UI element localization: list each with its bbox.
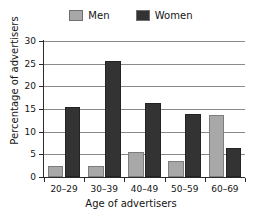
legend-label-women: Women xyxy=(155,10,193,21)
x-tick-mark xyxy=(165,178,166,182)
y-tick-label: 5 xyxy=(30,150,36,159)
bar-men xyxy=(128,152,144,177)
chart-legend: Men Women xyxy=(0,10,262,21)
bar-group xyxy=(84,41,124,177)
bar-men xyxy=(88,166,104,177)
bar-group xyxy=(44,41,84,177)
x-tick-label: 40–49 xyxy=(124,184,164,194)
bar-women xyxy=(145,103,161,177)
x-tick-label: 20–29 xyxy=(44,184,84,194)
bar-group xyxy=(165,41,205,177)
bar-men xyxy=(209,115,225,177)
bar-chart-figure: Men Women 051015202530 20–2930–3940–4950… xyxy=(0,0,262,218)
legend-entry-women: Women xyxy=(136,10,193,21)
x-tick-mark xyxy=(245,178,246,182)
x-axis-title: Age of advertisers xyxy=(0,198,262,209)
y-tick-label: 10 xyxy=(25,128,36,137)
bar-group xyxy=(205,41,245,177)
y-axis-title: Percentage of advertisers xyxy=(9,1,20,161)
x-tick-mark xyxy=(44,178,45,182)
bar-women xyxy=(105,61,121,178)
x-tick-mark xyxy=(124,178,125,182)
bar-men xyxy=(48,166,64,177)
x-tick-label: 50–59 xyxy=(165,184,205,194)
x-tick-mark xyxy=(205,178,206,182)
x-tick-mark xyxy=(84,178,85,182)
legend-label-men: Men xyxy=(88,10,109,21)
y-axis-spine xyxy=(43,40,44,178)
y-tick-label: 30 xyxy=(25,37,36,46)
bar-men xyxy=(168,161,184,177)
legend-entry-men: Men xyxy=(69,10,109,21)
y-tick-label: 20 xyxy=(25,82,36,91)
legend-swatch-women xyxy=(136,10,150,21)
y-tick-label: 0 xyxy=(30,173,36,182)
x-tick-label: 30–39 xyxy=(84,184,124,194)
y-tick-label: 25 xyxy=(25,60,36,69)
bar-group xyxy=(124,41,164,177)
bar-women xyxy=(65,107,81,177)
y-tick-label: 15 xyxy=(25,105,36,114)
x-tick-label: 60–69 xyxy=(205,184,245,194)
plot-area xyxy=(44,41,245,177)
x-axis-spine xyxy=(43,177,245,178)
bar-women xyxy=(226,148,242,177)
legend-swatch-men xyxy=(69,10,83,21)
bar-women xyxy=(185,114,201,177)
